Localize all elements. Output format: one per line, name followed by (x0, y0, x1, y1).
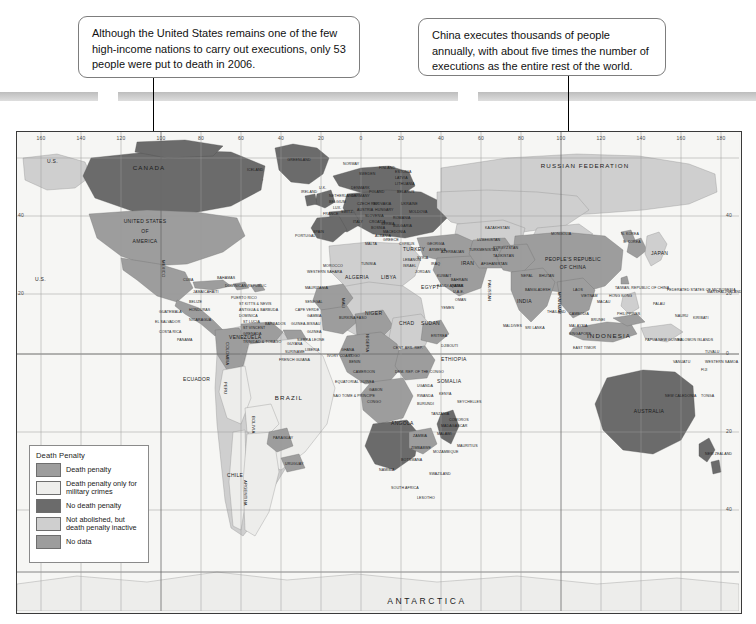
map-label-niger: NIGER (365, 310, 382, 316)
map-label-equatorial-guinea: EQUATORIAL GUINEA (335, 380, 374, 384)
longitude-label-100e: 100 (557, 135, 566, 141)
longitude-label-60e: 60 (478, 135, 484, 141)
map-label-colombia: COLOMBIA (225, 342, 230, 365)
longitude-label-0: 0 (360, 135, 363, 141)
map-label-united-states: UNITED STATES (124, 218, 167, 224)
map-label-macedonia: MACEDONIA (383, 230, 406, 234)
map-label-peru: PERU (223, 382, 228, 394)
map-label-yemen: YEMEN (441, 306, 454, 310)
map-label-kazakhstan: KAZAKHSTAN (485, 226, 510, 230)
latitude-label-right-40n: 40 (726, 212, 732, 218)
longitude-label-140w: 140 (77, 135, 86, 141)
callout-china-text: China executes thousands of people annua… (432, 28, 653, 75)
map-label-zimbabwe: ZIMBABWE (411, 446, 431, 450)
map-label-italy: ITALY (353, 220, 363, 224)
longitude-label-20e: 20 (398, 135, 404, 141)
map-label-slovakia: SLOVAKIA (373, 202, 391, 206)
map-label-china-line2: OF CHINA (560, 264, 586, 270)
map-label-brunei: BRUNEI (591, 318, 605, 322)
legend-swatch-no-death-penalty (36, 499, 61, 513)
map-label-guinea: GUINEA (307, 330, 321, 334)
map-label-united-states-of: OF (141, 228, 149, 234)
map-label-botswana: BOTSWANA (401, 458, 422, 462)
map-label-japan: JAPAN (651, 250, 668, 256)
legend-swatch-military-only (36, 481, 61, 495)
legend-item-military-only: Death penalty only for military crimes (36, 480, 143, 497)
map-label-bahamas: BAHAMAS (217, 276, 235, 280)
map-label-tunisia: TUNISIA (361, 262, 376, 266)
map-label-nicaragua: NICARAGUA (189, 318, 211, 322)
map-label-libya: LIBYA (381, 274, 396, 280)
map-label-nigeria: NIGERIA (365, 334, 370, 352)
legend-item-inactive: Not abolished, but death penalty inactiv… (36, 516, 143, 533)
world-map: .c-dp { fill:#9d9d9d; stroke:#6f6f6f; st… (16, 131, 742, 614)
map-label-ecuador: ECUADOR (183, 376, 210, 382)
map-label-djibouti: DJIBOUTI (441, 344, 458, 348)
map-label-algeria: ALGERIA (345, 274, 369, 280)
latitude-label-right-0: 0 (726, 350, 729, 356)
legend-item-no-data: No data (36, 535, 143, 549)
map-label-french-guiana: FRENCH GUIANA (279, 358, 310, 362)
map-label-bhutan: BHUTAN (539, 274, 554, 278)
map-label-iran: IRAN (461, 260, 474, 266)
longitude-label-120w: 120 (117, 135, 126, 141)
map-label-dominican-republic: DOMINICAN REPUBLIC (225, 284, 266, 288)
map-label-benin: BENIN (349, 360, 360, 364)
callout-china: China executes thousands of people annua… (418, 18, 666, 76)
map-label-venezuela: VENEZUELA (229, 334, 261, 340)
map-label-fiji: FIJI (701, 368, 707, 372)
map-label-georgia: GEORGIA (427, 242, 444, 246)
callout-united-states: Although the United States remains one o… (78, 16, 360, 78)
map-label-somalia: SOMALIA (437, 378, 461, 384)
map-label-mexico: MEXICO (161, 260, 166, 277)
map-label-uk: U.K. (319, 186, 326, 190)
map-label-antigua-barbuda: ANTIGUA & BARBUDA (239, 308, 278, 312)
map-label-cambodia: CAMBODIA (569, 312, 589, 316)
map-label-mauritania: MAURITANIA (305, 286, 328, 290)
map-label-lebanon: LEBANON (403, 258, 421, 262)
map-label-suriname: SURINAME (285, 350, 305, 354)
map-label-sudan: SUDAN (421, 320, 440, 326)
map-label-singapore: SINGAPORE (569, 332, 591, 336)
map-label-paraguay: PARAGUAY (273, 436, 293, 440)
map-label-united-states-america: AMERICA (133, 238, 158, 244)
map-label-lesotho: LESOTHO (417, 496, 435, 500)
map-label-hong-kong: HONG KONG (609, 294, 632, 298)
map-label-nepal: NEPAL (521, 274, 533, 278)
map-label-philippines: PHILIPPINES (617, 312, 640, 316)
legend-swatch-no-data (36, 535, 61, 549)
map-label-oman: OMAN (455, 298, 466, 302)
map-label-nauru: NAURU (675, 314, 688, 318)
map-label-maldives: MALDIVES (503, 324, 522, 328)
map-label-uae: U.A.E. (453, 290, 464, 294)
map-label-latvia: LATVIA (395, 176, 408, 180)
map-label-laos: LAOS (573, 288, 583, 292)
map-label-sri-lanka: SRI LANKA (525, 326, 545, 330)
map-label-greece: GREECE (383, 238, 399, 242)
map-label-kuwait: KUWAIT (437, 274, 451, 278)
map-label-azerbaijan: AZERBAIJAN (441, 250, 464, 254)
map-label-canada: CANADA (133, 164, 165, 171)
map-label-costa-rica: COSTA RICA (159, 330, 182, 334)
map-label-austria: AUSTRIA (357, 208, 373, 212)
map-label-bulgaria: BULGARIA (393, 224, 412, 228)
map-label-mongolia: MONGOLIA (551, 232, 571, 236)
map-label-cameroon: CAMEROON (353, 370, 375, 374)
map-label-namibia: NAMIBIA (379, 468, 394, 472)
map-label-st-lucia: ST LUCIA (243, 320, 260, 324)
map-label-chile: CHILE (227, 472, 243, 478)
longitude-label-120e: 120 (597, 135, 606, 141)
map-label-puerto-rico: PUERTO RICO (231, 296, 257, 300)
map-label-russia: RUSSIAN FEDERATION (541, 162, 629, 169)
callout-united-states-text: Although the United States remains one o… (92, 26, 347, 73)
map-label-el-salvador: EL SALVADOR (155, 320, 180, 324)
map-legend: Death Penalty Death penalty Death penalt… (29, 445, 149, 563)
map-label-uruguay: URUGUAY (285, 462, 303, 466)
longitude-label-140e: 140 (637, 135, 646, 141)
map-label-rwanda: RWANDA (417, 394, 433, 398)
map-label-barbados: BARBADOS (265, 322, 286, 326)
map-label-france: FRANCE (323, 212, 338, 216)
header-shadow-band-left (0, 92, 98, 101)
map-label-senegal: SENEGAL (305, 300, 323, 304)
map-label-palau: PALAU (653, 302, 665, 306)
